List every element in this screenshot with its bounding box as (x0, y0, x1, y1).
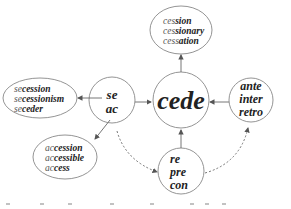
derived-word: access (45, 163, 84, 173)
prefix-left-node: se ac (100, 88, 124, 116)
ac-family-list: accession accessible access (45, 143, 84, 173)
derived-word: accessible (45, 153, 84, 163)
derived-word: cession (163, 16, 204, 26)
derived-word: secession (14, 84, 64, 94)
derived-word: cessation (163, 36, 204, 46)
derived-word: cessionary (163, 26, 204, 36)
root-word-cede: cede (153, 88, 209, 114)
arrow-ac-to-ac-family (95, 120, 110, 139)
word-formation-diagram: cession cessionary cessation secession s… (0, 0, 291, 209)
prefix-bottom-node: re pre con (170, 153, 194, 192)
dashed-arrow-re-to-ante (205, 128, 248, 173)
dashed-arrow-ac-to-re (117, 131, 157, 172)
se-family-list: secession secessionism seceder (14, 84, 64, 114)
derived-word: accession (45, 143, 84, 153)
derived-word: secessionism (14, 94, 64, 104)
prefix-right-node: ante inter retro (234, 80, 268, 119)
top-derived-list: cession cessionary cessation (163, 16, 204, 46)
derived-word: seceder (14, 104, 64, 114)
